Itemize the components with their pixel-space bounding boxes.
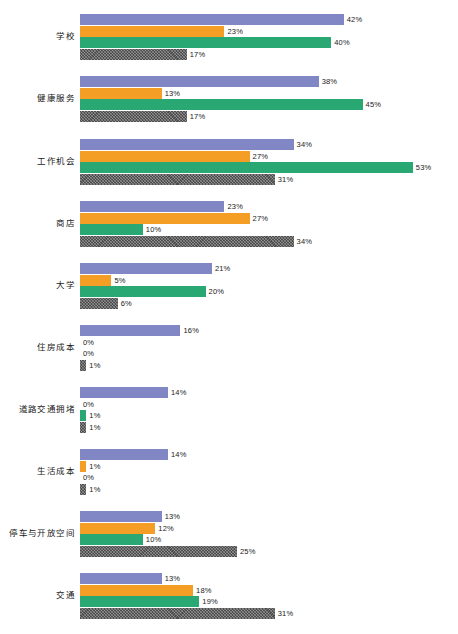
bar-value-label: 1% xyxy=(89,484,100,495)
bar-series_2 xyxy=(80,275,111,286)
bar-row: 1% xyxy=(80,360,458,371)
bar-group: 生活成本14%1%0%1% xyxy=(0,449,458,495)
bar-series_3 xyxy=(80,162,413,173)
bar-series_1 xyxy=(80,511,162,522)
bar-series_1 xyxy=(80,325,180,336)
bar-value-label: 34% xyxy=(297,236,313,247)
bar-row: 40% xyxy=(80,37,458,48)
bar-value-label: 1% xyxy=(89,422,100,433)
bar-row: 34% xyxy=(80,236,458,247)
bar-value-label: 23% xyxy=(227,201,243,212)
bar-value-label: 27% xyxy=(253,213,269,224)
bar-row: 0% xyxy=(80,399,458,410)
bar-value-label: 21% xyxy=(215,263,231,274)
bar-value-label: 25% xyxy=(240,546,256,557)
bar-value-label: 34% xyxy=(297,139,313,150)
bar-series_1 xyxy=(80,76,319,87)
bar-value-label: 10% xyxy=(146,534,162,545)
bar-value-label: 53% xyxy=(416,162,432,173)
grouped-bar-chart: 学校42%23%40%17%健康服务38%13%45%17%工作机会34%27%… xyxy=(0,0,458,634)
category-label: 住房成本 xyxy=(0,342,75,352)
bar-group: 工作机会34%27%53%31% xyxy=(0,139,458,185)
bar-series_1 xyxy=(80,449,168,460)
bar-series_4 xyxy=(80,111,187,122)
bar-group: 交通13%18%19%31% xyxy=(0,573,458,619)
category-label: 交通 xyxy=(0,590,75,600)
bar-row: 0% xyxy=(80,348,458,359)
bar-series_3 xyxy=(80,99,363,110)
bar-group: 停车与开放空间13%12%10%25% xyxy=(0,511,458,557)
bar-row: 16% xyxy=(80,325,458,336)
category-label: 健康服务 xyxy=(0,93,75,103)
bar-group: 学校42%23%40%17% xyxy=(0,14,458,60)
bar-row: 45% xyxy=(80,99,458,110)
bar-group: 道路交通拥堵14%0%1%1% xyxy=(0,387,458,433)
bar-row: 25% xyxy=(80,546,458,557)
bar-value-label: 17% xyxy=(190,49,206,60)
bar-row: 1% xyxy=(80,422,458,433)
bar-value-label: 18% xyxy=(196,585,212,596)
bar-group: 健康服务38%13%45%17% xyxy=(0,76,458,122)
bar-row: 18% xyxy=(80,585,458,596)
bar-value-label: 1% xyxy=(89,461,100,472)
bar-value-label: 27% xyxy=(253,151,269,162)
bar-series_4 xyxy=(80,49,187,60)
bar-value-label: 45% xyxy=(366,99,382,110)
bar-series_3 xyxy=(80,224,143,235)
bar-value-label: 16% xyxy=(183,325,199,336)
bar-value-label: 14% xyxy=(171,449,187,460)
bar-row: 13% xyxy=(80,88,458,99)
category-label: 大学 xyxy=(0,280,75,290)
bar-row: 21% xyxy=(80,263,458,274)
bar-value-label: 19% xyxy=(202,596,218,607)
bar-series_2 xyxy=(80,26,224,37)
bar-value-label: 5% xyxy=(114,275,125,286)
bar-row: 31% xyxy=(80,608,458,619)
bar-value-label: 13% xyxy=(165,573,181,584)
bar-series_1 xyxy=(80,263,212,274)
bar-series_4 xyxy=(80,546,237,557)
bar-row: 14% xyxy=(80,387,458,398)
bar-row: 20% xyxy=(80,286,458,297)
bar-series_1 xyxy=(80,201,224,212)
bar-value-label: 10% xyxy=(146,224,162,235)
bar-value-label: 20% xyxy=(209,286,225,297)
bar-group: 大学21%5%20%6% xyxy=(0,263,458,309)
bar-row: 23% xyxy=(80,26,458,37)
bar-series_3 xyxy=(80,596,199,607)
bar-series_3 xyxy=(80,410,86,421)
bar-row: 0% xyxy=(80,337,458,348)
bar-series_1 xyxy=(80,14,344,25)
bar-value-label: 40% xyxy=(334,37,350,48)
bar-series_4 xyxy=(80,298,118,309)
bar-series_2 xyxy=(80,151,250,162)
bar-series_2 xyxy=(80,213,250,224)
category-label: 停车与开放空间 xyxy=(0,528,75,538)
category-label: 学校 xyxy=(0,31,75,41)
category-label: 工作机会 xyxy=(0,156,75,166)
bar-series_4 xyxy=(80,422,86,433)
bar-value-label: 13% xyxy=(165,511,181,522)
bar-value-label: 13% xyxy=(165,88,181,99)
bar-row: 1% xyxy=(80,461,458,472)
bar-series_1 xyxy=(80,387,168,398)
bar-group: 商店23%27%10%34% xyxy=(0,201,458,247)
bar-row: 27% xyxy=(80,151,458,162)
bar-row: 13% xyxy=(80,511,458,522)
bar-series_1 xyxy=(80,139,294,150)
bar-row: 53% xyxy=(80,162,458,173)
bar-row: 23% xyxy=(80,201,458,212)
bar-row: 5% xyxy=(80,275,458,286)
bar-row: 38% xyxy=(80,76,458,87)
bar-group: 住房成本16%0%0%1% xyxy=(0,325,458,371)
bar-row: 1% xyxy=(80,410,458,421)
bar-row: 17% xyxy=(80,49,458,60)
bar-series_2 xyxy=(80,88,162,99)
bar-value-label: 14% xyxy=(171,387,187,398)
bar-series_3 xyxy=(80,286,206,297)
bar-series_4 xyxy=(80,484,86,495)
bar-row: 12% xyxy=(80,523,458,534)
bar-value-label: 12% xyxy=(158,523,174,534)
bar-value-label: 42% xyxy=(347,14,363,25)
bar-series_2 xyxy=(80,461,86,472)
